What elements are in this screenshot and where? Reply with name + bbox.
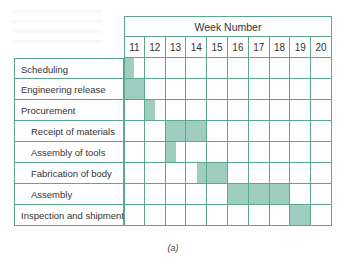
grid-cell (124, 142, 145, 163)
task-row: Receipt of materials (14, 121, 332, 142)
week-header-13: 13 (166, 36, 187, 58)
grid-cell (124, 163, 145, 184)
grid-cell (270, 100, 291, 121)
grid-cell (186, 184, 207, 205)
grid-cell (207, 79, 228, 100)
grid-cell (166, 163, 187, 184)
week-header-16: 16 (228, 36, 249, 58)
week-header-18: 18 (270, 36, 291, 58)
grid-cell (270, 58, 291, 79)
grid-cell (186, 163, 207, 184)
grid-cell (186, 58, 207, 79)
task-row: Inspection and shipment (14, 205, 332, 226)
grid-cell (311, 142, 332, 163)
grid-cell (290, 58, 311, 79)
week-header-12: 12 (145, 36, 166, 58)
task-label: Assembly of tools (14, 142, 124, 163)
grid-cell (207, 142, 228, 163)
grid-cell (228, 58, 249, 79)
grid-cell (166, 79, 187, 100)
grid-cell (145, 79, 166, 100)
grid-cell (270, 163, 291, 184)
grid-cell (249, 121, 270, 142)
week-header-11: 11 (124, 36, 145, 58)
grid-cell (311, 121, 332, 142)
grid-cell (145, 58, 166, 79)
grid-cell (249, 205, 270, 226)
grid-cell (145, 121, 166, 142)
grid-cell (145, 184, 166, 205)
grid-cell (145, 100, 166, 121)
grid-cell (186, 142, 207, 163)
task-label: Fabrication of body (14, 163, 124, 184)
grid-cell (290, 163, 311, 184)
faded-background-text (12, 10, 102, 48)
task-label: Receipt of materials (14, 121, 124, 142)
task-label: Inspection and shipment (14, 205, 124, 226)
week-number-header: Week Number (124, 16, 332, 36)
task-row: Engineering release (14, 79, 332, 100)
week-header-15: 15 (207, 36, 228, 58)
grid-cell (228, 79, 249, 100)
task-row: Procurement (14, 100, 332, 121)
grid-cell (249, 100, 270, 121)
grid-cell (124, 205, 145, 226)
grid-cell (166, 58, 187, 79)
grid-cell (290, 100, 311, 121)
grid-cell (207, 58, 228, 79)
grid-cell (249, 58, 270, 79)
grid-cell (311, 184, 332, 205)
grid-cell (166, 121, 187, 142)
grid-cell (311, 163, 332, 184)
grid-cell (186, 100, 207, 121)
grid-cell (124, 79, 145, 100)
grid-cell (207, 100, 228, 121)
grid-cell (270, 121, 291, 142)
grid-cell (207, 205, 228, 226)
grid-cell (228, 142, 249, 163)
week-header-19: 19 (290, 36, 311, 58)
grid-cell (166, 100, 187, 121)
grid-cell (228, 184, 249, 205)
grid-cell (290, 184, 311, 205)
grid-cell (290, 205, 311, 226)
grid-cell (124, 100, 145, 121)
grid-cell (290, 79, 311, 100)
grid-cell (166, 184, 187, 205)
grid-cell (124, 121, 145, 142)
grid-cell (186, 121, 207, 142)
week-header-14: 14 (186, 36, 207, 58)
grid-cell (186, 79, 207, 100)
task-label: Engineering release (14, 79, 124, 100)
grid-cell (311, 79, 332, 100)
grid-cell (124, 58, 145, 79)
grid-cell (145, 205, 166, 226)
grid-cell (228, 121, 249, 142)
grid-cell (311, 205, 332, 226)
week-header-17: 17 (249, 36, 270, 58)
grid-cell (145, 163, 166, 184)
grid-cell (228, 205, 249, 226)
grid-cell (124, 184, 145, 205)
grid-cell (249, 142, 270, 163)
grid-cell (270, 79, 291, 100)
grid-cell (166, 205, 187, 226)
task-label: Assembly (14, 184, 124, 205)
task-row: Assembly of tools (14, 142, 332, 163)
figure-caption: (a) (0, 243, 346, 253)
grid-cell (207, 121, 228, 142)
task-row: Fabrication of body (14, 163, 332, 184)
task-row: Scheduling (14, 58, 332, 79)
grid-cell (207, 163, 228, 184)
task-row: Assembly (14, 184, 332, 205)
grid-cell (270, 142, 291, 163)
week-header-20: 20 (311, 36, 332, 58)
grid-cell (166, 142, 187, 163)
grid-cell (145, 142, 166, 163)
task-label: Scheduling (14, 58, 124, 79)
grid-cell (290, 121, 311, 142)
grid-cell (249, 184, 270, 205)
grid-cell (270, 205, 291, 226)
grid-cell (186, 205, 207, 226)
grid-cell (311, 100, 332, 121)
